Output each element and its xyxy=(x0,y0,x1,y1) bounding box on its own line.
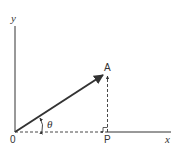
point-p-dot xyxy=(101,131,103,133)
vector-oa xyxy=(15,75,103,132)
point-p-label: P xyxy=(104,134,111,145)
vector-diagram: y x 0 A P θ xyxy=(0,0,183,149)
angle-theta-label: θ xyxy=(47,118,53,130)
point-a-label: A xyxy=(104,62,111,73)
x-axis-label: x xyxy=(164,133,170,145)
origin-label: 0 xyxy=(10,134,16,145)
right-angle-marker xyxy=(103,128,108,133)
y-axis-label: y xyxy=(10,12,16,24)
angle-arc xyxy=(40,118,43,131)
